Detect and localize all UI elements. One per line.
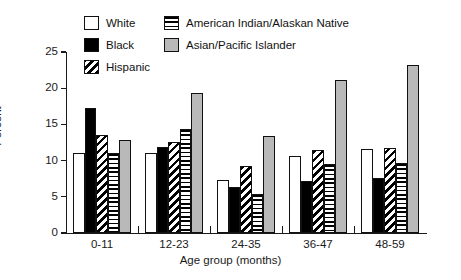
bar-group-12-23	[145, 52, 203, 233]
bar-black-36-47[interactable]	[301, 181, 313, 233]
bar-asian-pacific-islander-12-23[interactable]	[191, 93, 203, 233]
y-tick-label: 5	[52, 191, 58, 203]
y-tick-label: 20	[45, 82, 58, 94]
legend-label-white: White	[106, 17, 135, 29]
x-tick-label-36-47: 36-47	[288, 238, 348, 250]
x-axis-group-divider	[210, 226, 211, 233]
bar-chart-figure: White Black Hispanic American Indian/Ala…	[0, 0, 461, 280]
y-tick-label: 10	[45, 155, 58, 167]
bar-asian-pacific-islander-0-11[interactable]	[119, 140, 131, 233]
legend-swatch-black-icon	[84, 38, 99, 52]
bar-group-bars	[145, 52, 203, 233]
x-tick-label-48-59: 48-59	[360, 238, 420, 250]
bar-white-24-35[interactable]	[217, 180, 229, 233]
bar-hispanic-48-59[interactable]	[384, 148, 396, 233]
legend-column-right: American Indian/Alaskan Native Asian/Pac…	[164, 12, 349, 56]
bar-american-indian-alaskan-native-12-23[interactable]	[180, 129, 192, 233]
legend-item-american-indian-alaskan-native: American Indian/Alaskan Native	[164, 12, 349, 33]
bar-black-0-11[interactable]	[85, 108, 97, 233]
bar-group-bars	[73, 52, 131, 233]
bar-white-12-23[interactable]	[145, 153, 157, 233]
x-tick-label-24-35: 24-35	[216, 238, 276, 250]
x-tick-label-12-23: 12-23	[144, 238, 204, 250]
legend-swatch-american-indian-alaskan-native-icon	[164, 16, 179, 30]
x-tick-label-0-11: 0-11	[72, 238, 132, 250]
legend-swatch-white-icon	[84, 16, 99, 30]
bar-group-bars	[361, 52, 419, 233]
bar-black-48-59[interactable]	[373, 178, 385, 233]
bar-hispanic-12-23[interactable]	[168, 142, 180, 233]
x-axis-group-divider	[354, 226, 355, 233]
bar-group-bars	[217, 52, 275, 233]
bar-black-12-23[interactable]	[157, 147, 169, 233]
bar-black-24-35[interactable]	[229, 187, 241, 233]
bar-hispanic-0-11[interactable]	[96, 135, 108, 233]
y-tick-label: 25	[45, 46, 58, 58]
x-axis-group-divider	[282, 226, 283, 233]
bar-american-indian-alaskan-native-36-47[interactable]	[324, 164, 336, 233]
bar-white-36-47[interactable]	[289, 156, 301, 233]
y-axis-ticks: 0510152025	[0, 52, 66, 234]
legend-label-black: Black	[106, 39, 134, 51]
legend-swatch-asian-pacific-islander-icon	[164, 38, 179, 52]
bar-hispanic-36-47[interactable]	[312, 150, 324, 233]
y-tick-label: 0	[52, 227, 58, 239]
bar-white-0-11[interactable]	[73, 153, 85, 233]
bar-group-48-59	[361, 52, 419, 233]
bar-group-0-11	[73, 52, 131, 233]
legend-label-american-indian-alaskan-native: American Indian/Alaskan Native	[186, 17, 349, 29]
x-axis-title: Age group (months)	[0, 254, 461, 266]
bar-group-36-47	[289, 52, 347, 233]
bar-asian-pacific-islander-48-59[interactable]	[407, 65, 419, 233]
x-axis-group-divider	[138, 226, 139, 233]
bar-hispanic-24-35[interactable]	[240, 166, 252, 233]
bar-american-indian-alaskan-native-0-11[interactable]	[108, 153, 120, 233]
legend-item-white: White	[84, 12, 150, 33]
bar-white-48-59[interactable]	[361, 149, 373, 233]
bar-group-24-35	[217, 52, 275, 233]
bar-american-indian-alaskan-native-48-59[interactable]	[396, 163, 408, 233]
y-tick-label: 15	[45, 118, 58, 130]
legend-label-asian-pacific-islander: Asian/Pacific Islander	[186, 39, 296, 51]
bar-asian-pacific-islander-24-35[interactable]	[263, 136, 275, 233]
y-axis-title: Percent	[0, 106, 3, 146]
bar-american-indian-alaskan-native-24-35[interactable]	[252, 194, 264, 233]
bar-group-bars	[289, 52, 347, 233]
plot-area	[66, 52, 426, 233]
x-axis-line	[66, 233, 427, 234]
bar-asian-pacific-islander-36-47[interactable]	[335, 80, 347, 233]
